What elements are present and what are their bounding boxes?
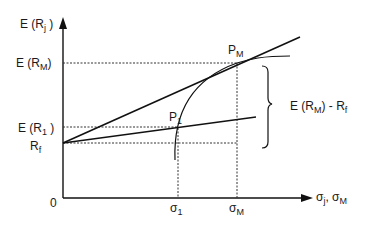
tick-label-sigmam: σM [229, 202, 244, 217]
y-axis-label: E (Rj ) [20, 18, 53, 33]
curly-brace-icon [262, 66, 272, 148]
rf-text: R [30, 139, 39, 153]
erm-sub: M [40, 62, 48, 72]
p1-sub: 1 [177, 116, 182, 126]
point-label-p1: P1 [169, 111, 182, 126]
risk-premium-tail: ) - R [322, 99, 345, 113]
x-axis-label-sep: , σ [325, 190, 339, 204]
p1-text: P [169, 110, 177, 124]
y-axis-label-close: ) [46, 17, 53, 31]
x-axis-arrowhead-icon [301, 194, 313, 202]
point-label-pm: PM [228, 44, 244, 59]
origin-label: 0 [50, 197, 57, 209]
er1-text: E (R [18, 121, 42, 135]
pm-text: P [228, 43, 236, 57]
risk-premium-label: E (RM) - Rf [290, 100, 347, 115]
tick-label-erm: E (RM) [16, 57, 52, 72]
x-axis-label: σj, σM [316, 191, 347, 206]
risk-premium-sub-m: M [314, 105, 322, 115]
risk-premium-text: E (R [290, 99, 314, 113]
tick-label-sigma1: σ1 [170, 202, 182, 217]
rf-sub: f [39, 145, 42, 155]
efficient-frontier-curve [175, 56, 290, 160]
sigmam-sub: M [236, 207, 244, 217]
risk-premium-sub-f: f [345, 105, 348, 115]
y-axis-arrowhead-icon [59, 17, 67, 29]
er1-close: ) [47, 121, 54, 135]
y-axis-label-text: E (R [20, 17, 44, 31]
erm-close: ) [48, 56, 52, 70]
tick-label-er1: E (R1 ) [18, 122, 54, 137]
pm-sub: M [236, 49, 244, 59]
sigma1-sub: 1 [177, 207, 182, 217]
tick-label-rf: Rf [30, 140, 41, 155]
x-axis-label-b-sub: M [339, 196, 347, 206]
erm-text: E (R [16, 56, 40, 70]
